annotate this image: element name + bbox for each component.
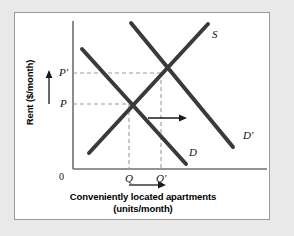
demand-shifted-curve-label: D' [243, 130, 253, 141]
y-axis-title: Rent ($/month) [24, 43, 35, 143]
supply-demand-chart [15, 13, 271, 221]
price-rise-arrow [46, 70, 53, 104]
demand-curve-shifted [131, 23, 233, 147]
quantity-label: Q [125, 173, 133, 184]
origin-label: 0 [59, 172, 64, 182]
price-label: P [60, 98, 67, 109]
price-shifted-label: P' [59, 67, 68, 78]
supply-curve-label: S [212, 29, 218, 40]
quantity-shifted-label: Q' [156, 173, 166, 184]
demand-curve-label: D [189, 147, 197, 158]
x-axis-title-line1: Conveniently located apartments [70, 191, 216, 202]
demand-shift-arrow [148, 115, 187, 122]
x-axis-title: Conveniently located apartments (units/m… [15, 191, 271, 214]
y-axis-title-text: Rent ($/month) [24, 60, 35, 126]
x-axis-title-line2: (units/month) [15, 203, 271, 214]
figure-panel: S D D' P' P Q Q' 0 Rent ($/month) Conven… [14, 12, 270, 220]
